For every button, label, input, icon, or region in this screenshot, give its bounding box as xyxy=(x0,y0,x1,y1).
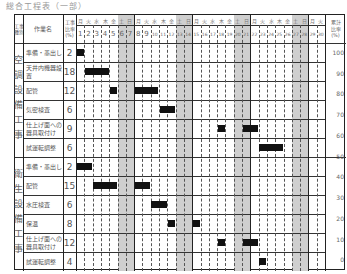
task-ratio: 6 xyxy=(63,138,76,157)
divider xyxy=(225,25,226,271)
day-number: 27 xyxy=(292,25,300,43)
divider xyxy=(151,25,152,271)
weekday-label: 土 xyxy=(118,15,126,25)
weekday-label: 日 xyxy=(242,15,250,25)
day-number: 26 xyxy=(284,25,292,43)
gantt-bar xyxy=(135,182,151,189)
category-label: 空調設備工事 xyxy=(15,43,23,157)
day-number: 10 xyxy=(151,25,159,43)
day-number: 7 xyxy=(126,25,134,43)
day-number: 29 xyxy=(308,25,316,43)
divider xyxy=(201,25,202,271)
task-name: 気密検査 xyxy=(23,100,63,119)
gantt-bar xyxy=(135,87,159,94)
gantt-bar xyxy=(243,239,259,246)
gantt-bar xyxy=(243,125,259,132)
day-number: 15 xyxy=(192,25,200,43)
weekday-label: 土 xyxy=(292,15,300,25)
weekday-label: 火 xyxy=(259,15,267,25)
task-name: 配管 xyxy=(23,81,63,100)
day-number: 22 xyxy=(250,25,258,43)
weekday-label: 木 xyxy=(159,15,167,25)
day-number: 30 xyxy=(317,25,325,43)
task-ratio: 6 xyxy=(63,195,76,214)
task-ratio: 4 xyxy=(63,252,76,271)
day-number: 18 xyxy=(217,25,225,43)
divider xyxy=(217,25,218,271)
divider xyxy=(242,25,243,271)
divider xyxy=(192,15,193,271)
day-number: 13 xyxy=(176,25,184,43)
gantt-bar xyxy=(151,201,167,208)
divider xyxy=(118,25,119,271)
task-name: 配管 xyxy=(23,176,63,195)
weekday-label: 火 xyxy=(201,15,209,25)
day-number: 9 xyxy=(142,25,150,43)
divider xyxy=(184,25,185,271)
divider xyxy=(109,25,110,271)
task-name: 天井内機器設置 xyxy=(23,62,63,81)
axis-tick-label: 10 xyxy=(326,236,344,243)
task-name: 保温 xyxy=(23,214,63,233)
task-ratio: 2 xyxy=(63,43,76,62)
axis-tick-label: 50 xyxy=(326,153,344,160)
day-number: 1 xyxy=(76,25,84,43)
day-number: 16 xyxy=(201,25,209,43)
weekday-label: 金 xyxy=(225,15,233,25)
gantt-bar xyxy=(259,144,283,151)
weekday-label: 金 xyxy=(109,15,117,25)
divider xyxy=(308,15,309,271)
task-name: 仕上げ面への器具取付け xyxy=(23,233,63,252)
day-number: 12 xyxy=(167,25,175,43)
header-ratio: 工事 比率 (%) xyxy=(63,15,76,43)
day-number: 25 xyxy=(275,25,283,43)
weekday-label: 日 xyxy=(126,15,134,25)
divider xyxy=(234,25,235,271)
task-name: 試運転調整 xyxy=(23,138,63,157)
axis-tick-label: 100 xyxy=(326,49,344,56)
gantt-bar xyxy=(193,220,200,227)
gantt-bar xyxy=(77,49,84,56)
weekday-label: 月 xyxy=(76,15,84,25)
day-number: 8 xyxy=(134,25,142,43)
weekday-label: 金 xyxy=(284,15,292,25)
task-ratio: 8 xyxy=(63,214,76,233)
day-number: 28 xyxy=(300,25,308,43)
divider xyxy=(292,25,293,271)
divider xyxy=(300,25,301,271)
divider xyxy=(209,25,210,271)
divider xyxy=(134,15,135,271)
divider xyxy=(159,25,160,271)
gantt-bar xyxy=(110,87,117,94)
day-number: 5 xyxy=(109,25,117,43)
axis-tick-label: 90 xyxy=(326,70,344,77)
day-number: 20 xyxy=(234,25,242,43)
weekday-label: 金 xyxy=(167,15,175,25)
weekday-label: 日 xyxy=(300,15,308,25)
gantt-bar xyxy=(168,220,175,227)
task-name: 準備・墨出し xyxy=(23,157,63,176)
weekday-label: 日 xyxy=(184,15,192,25)
day-number: 24 xyxy=(267,25,275,43)
task-name: 試運転調整 xyxy=(23,252,63,271)
weekday-label: 水 xyxy=(93,15,101,25)
task-name: 準備・墨出し xyxy=(23,43,63,62)
task-ratio: 18 xyxy=(63,62,76,81)
task-ratio: 12 xyxy=(63,81,76,100)
weekday-label: 火 xyxy=(317,15,325,25)
weekday-label: 土 xyxy=(176,15,184,25)
gantt-bar xyxy=(160,106,176,113)
weekday-label: 水 xyxy=(151,15,159,25)
chart-title: 総合工程表（一部） xyxy=(6,0,87,11)
weekday-label: 水 xyxy=(209,15,217,25)
axis-tick-label: 70 xyxy=(326,111,344,118)
gantt-bar xyxy=(259,258,266,265)
axis-tick-label: 60 xyxy=(326,132,344,139)
divider xyxy=(101,25,102,271)
task-ratio: 9 xyxy=(63,119,76,138)
divider xyxy=(126,25,127,271)
weekday-label: 月 xyxy=(134,15,142,25)
task-name: 水圧検査 xyxy=(23,195,63,214)
day-number: 6 xyxy=(118,25,126,43)
axis-tick-label: 80 xyxy=(326,90,344,97)
